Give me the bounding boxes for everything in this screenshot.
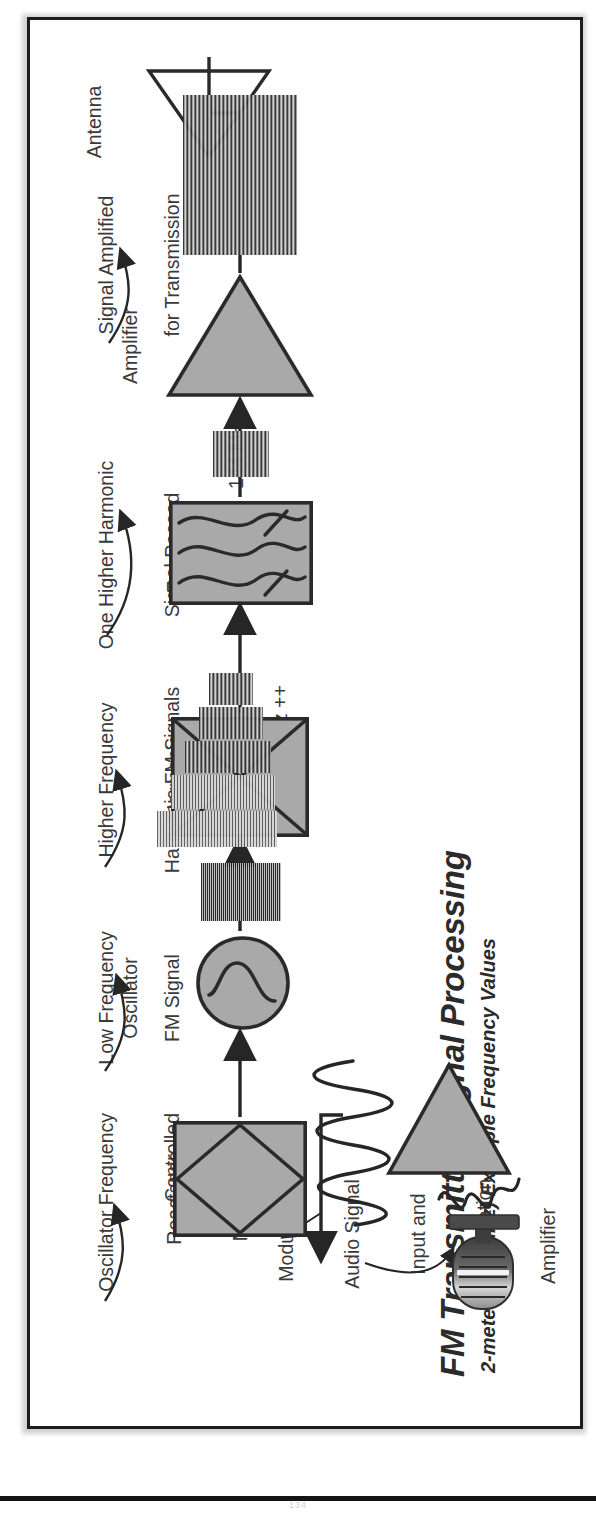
- page-folio: 134: [0, 1500, 596, 1510]
- wire-speech-to-modulator: [321, 1115, 343, 1251]
- signal-band-harmonic-1: [157, 811, 277, 847]
- signal-wires: [35, 33, 575, 1413]
- figure-frame: FM Transmitter Signal Processing 2-meter…: [27, 17, 583, 1429]
- rotated-diagram-plane: FM Transmitter Signal Processing 2-meter…: [35, 33, 575, 1413]
- signal-band-harmonic-3: [185, 741, 271, 773]
- signal-band-low-frequency: [201, 863, 281, 921]
- signal-band-harmonic-2: [171, 775, 275, 809]
- signal-band-harmonic-5: [209, 673, 253, 705]
- signal-band-harmonic-4: [199, 707, 263, 739]
- page-canvas: FM Transmitter Signal Processing 2-meter…: [0, 0, 596, 1514]
- signal-band-transmission: [183, 95, 297, 255]
- signal-band-passed-harmonic: [213, 431, 269, 477]
